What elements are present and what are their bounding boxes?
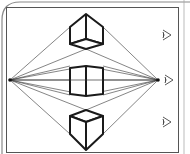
left-vanishing-point (8, 78, 12, 82)
right-vanishing-point (156, 78, 160, 82)
perspective-diagram (0, 0, 190, 154)
cube-at-horizon (70, 66, 103, 96)
